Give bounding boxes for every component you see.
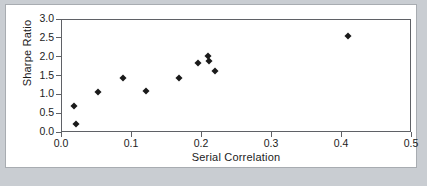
y-tick-label: 0.0 (28, 126, 54, 137)
x-tick-label: 0.3 (254, 138, 288, 149)
y-tick-mark (56, 19, 61, 20)
y-tick-mark (56, 113, 61, 114)
x-axis-title: Serial Correlation (61, 151, 411, 163)
scatter-plot: 0.00.51.01.52.02.53.0 0.00.10.20.30.40.5… (6, 5, 418, 169)
y-tick-mark (56, 94, 61, 95)
y-tick-mark (56, 56, 61, 57)
axes-frame (61, 19, 411, 132)
x-tick-label: 0.2 (184, 138, 218, 149)
x-tick-label: 0.1 (114, 138, 148, 149)
x-tick-label: 0.5 (394, 138, 427, 149)
x-tick-label: 0.4 (324, 138, 358, 149)
x-tick-label: 0.0 (44, 138, 78, 149)
y-tick-mark (56, 75, 61, 76)
y-tick-mark (56, 37, 61, 38)
y-axis-title: Sharpe Ratio (21, 0, 33, 109)
figure-card: 0.00.51.01.52.02.53.0 0.00.10.20.30.40.5… (5, 4, 417, 168)
